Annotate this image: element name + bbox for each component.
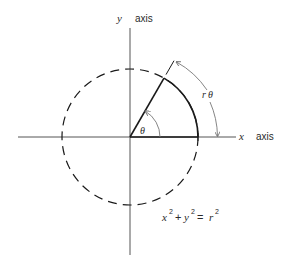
y-axis-label: axis (135, 13, 153, 24)
x-axis-var-label: x (238, 130, 244, 142)
sector-arc (164, 78, 198, 137)
svg-text:2: 2 (169, 208, 173, 215)
theta-arc-arrow (146, 111, 161, 137)
y-axis-var-label: y (116, 12, 122, 24)
svg-text:2: 2 (191, 208, 195, 215)
theta-label: θ (140, 125, 145, 136)
circle-equation: x 2 + y 2 = r 2 (161, 208, 219, 223)
arc-length-theta-label: θ (208, 89, 213, 100)
svg-text:=: = (197, 211, 203, 223)
x-axis-label: axis (256, 131, 274, 142)
extension-line (166, 61, 174, 75)
arc-length-r-label: r (202, 89, 206, 100)
unit-circle-diagram: y axis x axis θ r θ x 2 + y 2 = r 2 (0, 0, 289, 265)
svg-text:2: 2 (215, 208, 219, 215)
svg-text:y: y (183, 211, 189, 223)
svg-text:+: + (175, 211, 181, 223)
r-theta-arc-arrow-lower (210, 102, 218, 136)
r-theta-arc-arrow-upper (177, 62, 208, 90)
svg-text:r: r (209, 211, 214, 223)
svg-text:x: x (161, 211, 167, 223)
